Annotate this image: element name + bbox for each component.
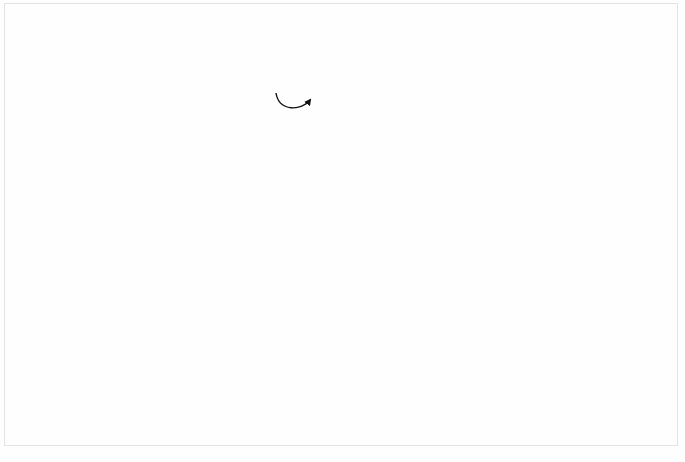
connector-layer	[0, 0, 685, 462]
iteration-arc-icon	[276, 93, 310, 108]
structure-chart-figure	[0, 0, 685, 462]
